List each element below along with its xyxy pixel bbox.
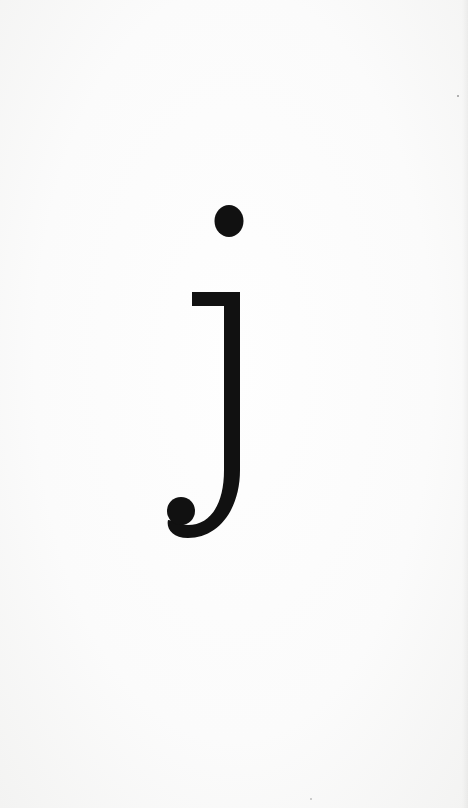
dust-speck bbox=[310, 798, 312, 800]
letter-j-ball-terminal bbox=[167, 497, 195, 525]
letter-j-glyph bbox=[0, 0, 468, 808]
letter-card: j bbox=[0, 0, 468, 808]
dust-speck bbox=[457, 95, 459, 97]
letter-j-dot bbox=[215, 205, 244, 237]
